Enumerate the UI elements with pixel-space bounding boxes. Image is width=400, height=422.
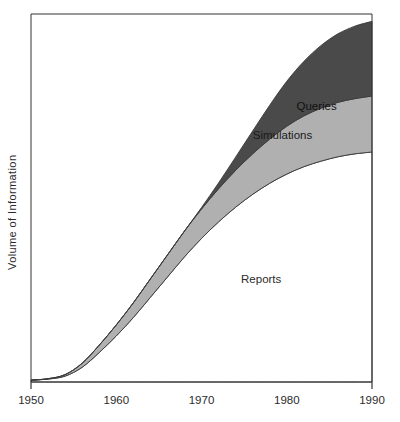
x-tick-label-1990: 1990 xyxy=(359,394,385,406)
chart-figure: 19501960197019801990 Volume of Informati… xyxy=(0,0,400,422)
series-label-reports: Reports xyxy=(241,273,282,285)
area-chart: 19501960197019801990 Volume of Informati… xyxy=(0,0,400,422)
x-tick-label-1980: 1980 xyxy=(274,394,300,406)
x-tick-label-1950: 1950 xyxy=(18,394,44,406)
x-tick-label-1960: 1960 xyxy=(104,394,130,406)
series-label-simulations: Simulations xyxy=(253,129,313,141)
x-tick-label-1970: 1970 xyxy=(189,394,215,406)
series-label-queries: Queries xyxy=(296,100,337,112)
y-axis-title: Volume of Information xyxy=(6,155,18,270)
